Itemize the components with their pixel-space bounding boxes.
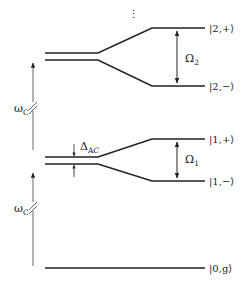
- break-mark: [29, 102, 37, 110]
- break-mark: [29, 202, 37, 210]
- level-1-plus-line: [45, 139, 205, 157]
- ellipsis-more-levels: ⋮: [128, 8, 139, 21]
- energy-level-diagram: ⋮ Ω2 |2,+⟩ |2,−⟩ Ω1 |1,+⟩ |1,−⟩ ΔAC |0,g…: [0, 0, 243, 290]
- state-1-plus-label: |1,+⟩: [209, 134, 234, 146]
- omega-c-label-lower: ωC: [14, 202, 29, 217]
- state-2-minus-label: |2,−⟩: [209, 81, 234, 93]
- omega-c-label-upper: ωC: [14, 102, 29, 117]
- manifold-1: Ω1 |1,+⟩ |1,−⟩ ΔAC: [45, 134, 234, 188]
- ground-state: |0,g⟩: [45, 263, 232, 275]
- manifold-2: Ω2 |2,+⟩ |2,−⟩: [45, 23, 234, 93]
- ac-shift-label: ΔAC: [80, 140, 99, 155]
- level-2-plus-line: [45, 28, 205, 53]
- level-1-minus-line: [45, 164, 205, 181]
- state-0g-label: |0,g⟩: [209, 263, 232, 275]
- state-1-minus-label: |1,−⟩: [209, 176, 234, 188]
- level-2-minus-line: [45, 60, 205, 86]
- cavity-frequency-arrows: ωC ωC: [14, 63, 37, 266]
- state-2-plus-label: |2,+⟩: [209, 23, 234, 35]
- omega1-label: Ω1: [185, 153, 199, 168]
- omega2-label: Ω2: [185, 52, 199, 67]
